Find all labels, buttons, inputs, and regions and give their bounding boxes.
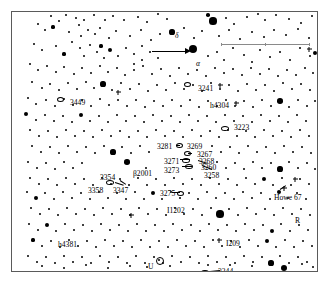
star-point (307, 229, 309, 231)
star-point (295, 74, 297, 76)
star-point (216, 210, 223, 217)
star-point (197, 198, 199, 200)
star-point (65, 14, 67, 16)
star-point (264, 208, 266, 210)
star-point (206, 13, 210, 17)
star-point (223, 72, 225, 74)
star-point (37, 229, 39, 231)
star-point (238, 152, 240, 154)
star-point (178, 67, 180, 69)
star-point (313, 51, 317, 55)
star-point (242, 115, 244, 117)
star-point (100, 81, 105, 86)
star-point (189, 99, 191, 101)
star-point (29, 63, 31, 65)
star-point (210, 207, 212, 209)
star-point (251, 121, 253, 123)
star-point (122, 240, 124, 242)
star-point (81, 256, 83, 258)
star-point (108, 48, 113, 53)
star-point (252, 161, 254, 163)
star-point (93, 87, 95, 89)
star-point (192, 208, 194, 210)
star-point (99, 27, 101, 29)
star-point (146, 184, 148, 186)
star-point (164, 135, 166, 137)
star-point (254, 183, 256, 185)
star-point (300, 83, 302, 85)
star-point (53, 198, 55, 200)
ic-1202-label: I1202 (167, 207, 185, 215)
star-point (314, 100, 316, 102)
ngc-3271-label: 3271 (164, 158, 179, 166)
star-point (161, 120, 163, 122)
star-point (67, 82, 69, 84)
star-point (165, 89, 167, 91)
star-point (83, 55, 86, 58)
star-point (311, 245, 313, 247)
star-point (139, 145, 141, 147)
star-point (256, 151, 258, 153)
star-point (308, 37, 310, 39)
ic-209-label: I209 (226, 240, 240, 248)
star-point (243, 100, 245, 102)
star-point (146, 136, 148, 138)
star-point (270, 229, 275, 234)
star-point (172, 223, 174, 225)
star-point (292, 151, 294, 153)
star-point (55, 230, 57, 232)
star-point (126, 105, 128, 107)
ngc-3223-label: 3223 (234, 124, 249, 132)
star-point (46, 65, 48, 67)
star-point (214, 67, 216, 69)
star-point (120, 82, 122, 84)
star-point (99, 65, 101, 67)
star-point (246, 16, 248, 18)
star-point (30, 207, 32, 209)
star-point (65, 129, 67, 131)
star-point (108, 261, 110, 263)
star-point (216, 161, 218, 163)
star-point (121, 146, 123, 148)
star-point (153, 256, 155, 258)
star-point (207, 55, 210, 58)
star-point (291, 213, 293, 215)
star-point (108, 104, 110, 106)
star-point (265, 239, 269, 243)
cross-right-edge (307, 47, 312, 52)
star-point (183, 27, 185, 29)
star-point (129, 35, 131, 37)
star-point (110, 135, 112, 137)
star-point (206, 115, 208, 117)
star-point (36, 167, 38, 169)
ngc-3449-label: 3449 (70, 99, 85, 107)
star-point (219, 88, 221, 90)
star-point (193, 37, 195, 39)
star-point (71, 121, 73, 123)
star-point (251, 197, 253, 199)
star-point (286, 69, 288, 71)
ngc-3354-label: 3354 (100, 174, 115, 182)
star-point (138, 207, 140, 209)
star-point (31, 145, 33, 147)
star-point (288, 161, 290, 163)
star-point (169, 29, 174, 34)
star-point (243, 54, 245, 56)
star-point (29, 177, 31, 179)
star-point (86, 240, 88, 242)
star-point (278, 115, 280, 117)
star-point (209, 17, 216, 24)
star-point (79, 47, 81, 49)
star-point (81, 67, 83, 69)
ngc-3358-label: 3358 (88, 187, 103, 195)
star-point (282, 207, 284, 209)
star-point (269, 120, 271, 122)
star-point (138, 83, 140, 85)
star-point (206, 191, 208, 193)
star-point (116, 114, 118, 116)
label-leader-2 (180, 159, 190, 160)
star-point (35, 103, 37, 105)
star-point (180, 261, 182, 263)
star-point (196, 69, 198, 71)
star-point (137, 130, 139, 132)
